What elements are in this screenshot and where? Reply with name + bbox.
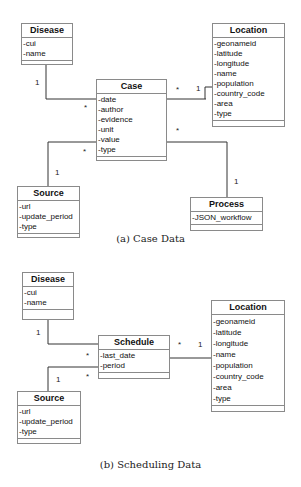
attribute: -country_code (213, 371, 284, 382)
class-title: Source (18, 392, 80, 406)
multiplicity-label: * (176, 86, 179, 94)
attribute: -type (19, 427, 80, 437)
operations-compartment (213, 121, 284, 129)
attribute: -name (23, 49, 72, 59)
attribute: -latitude (213, 327, 284, 338)
attribute: -evidence (98, 115, 166, 125)
attribute: -url (19, 202, 79, 212)
attribute: -type (213, 393, 284, 404)
multiplicity-label: * (178, 341, 181, 349)
class-schedule-b: Schedule -last_date -period (98, 335, 170, 379)
class-title: Disease (22, 24, 72, 38)
class-title: Process (191, 198, 262, 212)
operations-compartment (97, 157, 166, 165)
operations-compartment (212, 406, 284, 414)
class-disease-b: Disease -cui -name (22, 272, 74, 320)
operations-compartment (99, 373, 169, 381)
attribute: -latitude (214, 49, 284, 59)
attribute: -type (98, 145, 166, 155)
multiplicity-label: 1 (36, 329, 40, 337)
attribute: -update_period (19, 417, 80, 427)
attribute: -area (213, 382, 284, 393)
class-location-b: Location -geonameid -latitude -longitude… (211, 300, 285, 412)
attribute: -cui (23, 39, 72, 49)
attribute: -cui (24, 288, 73, 298)
attribute: -url (19, 407, 80, 417)
operations-compartment (191, 225, 262, 233)
attribute: -JSON_workflow (192, 213, 262, 223)
multiplicity-label: * (84, 104, 87, 112)
multiplicity-label: * (83, 148, 86, 156)
attribute: -author (98, 105, 166, 115)
multiplicity-label: 1 (198, 341, 202, 349)
attribute: -geonameid (213, 316, 284, 327)
multiplicity-label: 1 (55, 169, 59, 177)
attribute: -name (214, 69, 284, 79)
attribute: -longitude (213, 338, 284, 349)
class-source-b: Source -url -update_period -type (17, 391, 81, 444)
class-title: Source (18, 187, 79, 201)
multiplicity-label: 1 (35, 79, 39, 87)
figure-caption-a: (a) Case Data (0, 233, 301, 244)
operations-compartment (23, 310, 73, 322)
attribute: -area (214, 99, 284, 109)
attribute: -name (213, 349, 284, 360)
class-case-a: Case -date -author -evidence -unit -valu… (96, 79, 167, 161)
attribute: -name (24, 298, 73, 308)
class-source-a: Source -url -update_period -type (17, 186, 80, 238)
attribute: -country_code (214, 89, 284, 99)
class-location-a: Location -geonameid -latitude -longitude… (212, 23, 285, 127)
multiplicity-label: * (86, 352, 89, 360)
attribute: -last_date (100, 351, 169, 361)
attribute: -geonameid (214, 39, 284, 49)
attribute: -update_period (19, 212, 79, 222)
attribute: -population (214, 79, 284, 89)
attribute: -value (98, 135, 166, 145)
multiplicity-label: * (86, 373, 89, 381)
operations-compartment (22, 61, 72, 69)
figure-caption-b: (b) Scheduling Data (0, 459, 301, 470)
attribute: -type (214, 109, 284, 119)
class-title: Location (212, 301, 284, 315)
operations-compartment (18, 439, 80, 447)
attribute: -type (19, 222, 79, 232)
class-title: Case (97, 80, 166, 94)
class-title: Schedule (99, 336, 169, 350)
multiplicity-label: * (176, 127, 179, 135)
multiplicity-label: 1 (234, 178, 238, 186)
attribute: -population (213, 360, 284, 371)
multiplicity-label: 1 (196, 85, 200, 93)
class-process-a: Process -JSON_workflow (190, 197, 263, 231)
class-disease-a: Disease -cui -name (21, 23, 73, 65)
attribute: -date (98, 95, 166, 105)
attribute: -unit (98, 125, 166, 135)
multiplicity-label: 1 (56, 376, 60, 384)
class-title: Disease (23, 273, 73, 287)
class-title: Location (213, 24, 284, 38)
attribute: -period (100, 361, 169, 371)
attribute: -longitude (214, 59, 284, 69)
